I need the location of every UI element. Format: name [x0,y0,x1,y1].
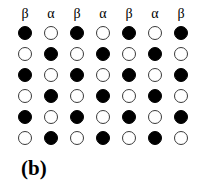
column-label-1: α [38,6,64,22]
lattice-site-r4-c3 [96,110,110,124]
lattice-site-r2-c3 [96,68,110,82]
column-label-6: β [168,6,194,22]
lattice-site-r0-c6 [174,26,188,40]
lattice-site-r5-c2 [70,131,84,145]
column-label-5: α [142,6,168,22]
lattice-site-r4-c1 [44,110,58,124]
lattice-site-r2-c1 [44,68,58,82]
lattice-site-r2-c2 [70,68,84,82]
figure-panel-b: βαβαβαβ (b) [0,0,207,184]
lattice-site-r2-c4 [122,68,136,82]
lattice-site-r0-c1 [44,26,58,40]
lattice-site-r3-c3 [96,89,110,103]
column-label-2: β [64,6,90,22]
lattice-site-r5-c0 [18,131,32,145]
lattice-site-r3-c4 [122,89,136,103]
lattice-site-r2-c6 [174,68,188,82]
lattice-site-r0-c4 [122,26,136,40]
lattice-site-r3-c5 [148,89,162,103]
lattice-site-r4-c4 [122,110,136,124]
lattice-site-r5-c5 [148,131,162,145]
lattice-site-r0-c2 [70,26,84,40]
lattice-site-r3-c6 [174,89,188,103]
lattice-site-r1-c3 [96,47,110,61]
lattice-site-r4-c2 [70,110,84,124]
column-label-3: α [90,6,116,22]
lattice-site-r3-c0 [18,89,32,103]
lattice-site-r2-c5 [148,68,162,82]
column-label-4: β [116,6,142,22]
lattice-site-r1-c5 [148,47,162,61]
lattice-site-r5-c1 [44,131,58,145]
lattice-site-r4-c5 [148,110,162,124]
lattice-site-r1-c0 [18,47,32,61]
lattice-site-r0-c5 [148,26,162,40]
lattice-site-r1-c4 [122,47,136,61]
column-label-0: β [12,6,38,22]
lattice-site-r1-c1 [44,47,58,61]
lattice-site-r1-c2 [70,47,84,61]
lattice-site-r5-c6 [174,131,188,145]
lattice-site-r5-c4 [122,131,136,145]
lattice-site-r4-c0 [18,110,32,124]
figure-caption: (b) [21,158,47,179]
lattice-site-r0-c3 [96,26,110,40]
lattice-site-r1-c6 [174,47,188,61]
lattice-site-r2-c0 [18,68,32,82]
lattice-site-r3-c1 [44,89,58,103]
lattice-site-r4-c6 [174,110,188,124]
lattice-site-r5-c3 [96,131,110,145]
lattice-site-r0-c0 [18,26,32,40]
lattice-site-r3-c2 [70,89,84,103]
